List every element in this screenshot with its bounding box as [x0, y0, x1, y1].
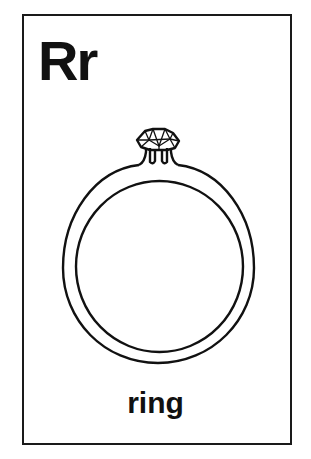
- word-label: ring: [0, 388, 311, 418]
